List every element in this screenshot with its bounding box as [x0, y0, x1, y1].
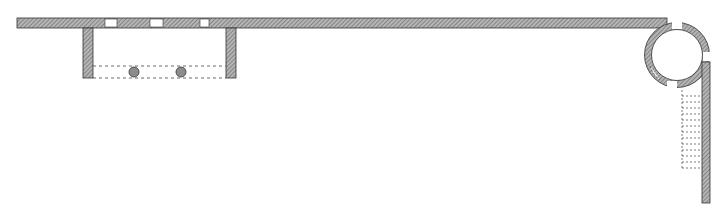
right-wall: [702, 62, 710, 203]
window-opening: [105, 19, 117, 27]
round-tower: [645, 22, 711, 88]
floor-plan: [0, 0, 728, 210]
column: [129, 67, 139, 77]
column: [176, 67, 186, 77]
window-opening: [150, 19, 163, 27]
pavilion: [83, 28, 236, 78]
stair: [682, 90, 702, 168]
top-wall: [17, 18, 667, 28]
window-opening: [200, 19, 209, 27]
